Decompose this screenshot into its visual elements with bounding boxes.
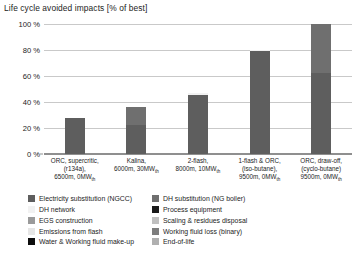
legend-label: EGS construction <box>39 216 93 225</box>
y-axis-tick-mark <box>40 154 43 155</box>
legend-swatch-icon <box>28 228 35 235</box>
legend-item[interactable]: Working fluid loss (binary) <box>152 226 247 235</box>
legend-swatch-icon <box>152 238 159 245</box>
legend-label: Scaling & residues disposal <box>163 216 247 225</box>
bar-segment <box>311 73 331 154</box>
bar-slot <box>106 24 168 154</box>
y-axis-tick-label: 100 % <box>18 20 40 29</box>
legend-column-left: Electricity substitution (NGCC)DH networ… <box>28 194 134 247</box>
x-axis-label-line: 9500m, 0MWth <box>284 173 358 182</box>
x-axis-label: ORC, draw-off,(cyclo-butane)9500m, 0MWth <box>284 157 358 183</box>
legend-label: Electricity substitution (NGCC) <box>39 194 132 203</box>
stacked-bar[interactable] <box>311 24 331 154</box>
chart-title: Life cycle avoided impacts [% of best] <box>4 3 147 13</box>
y-axis-tick-label: 20 % <box>23 124 40 133</box>
legend-swatch-icon <box>152 195 159 202</box>
y-axis-tick-label: 80 % <box>23 46 40 55</box>
subscript-th: th <box>276 177 280 182</box>
legend-item[interactable]: Electricity substitution (NGCC) <box>28 194 134 203</box>
bar-segment <box>250 51 270 154</box>
stacked-bar[interactable] <box>65 118 85 154</box>
legend-swatch-icon <box>152 228 159 235</box>
legend-item[interactable]: Emissions from flash <box>28 226 134 235</box>
stacked-bar[interactable] <box>188 93 208 154</box>
legend-item[interactable]: DH network <box>28 205 134 214</box>
x-axis-label-line: (cyclo-butane) <box>284 165 358 173</box>
legend-swatch-icon <box>28 217 35 224</box>
x-axis-label-line: ORC, draw-off, <box>284 157 358 165</box>
legend-swatch-icon <box>28 206 35 213</box>
x-axis-label-line: 6500m, 0MWth <box>38 173 112 182</box>
subscript-th: th <box>92 177 96 182</box>
y-axis-tick-label: 60 % <box>23 72 40 81</box>
legend-column-right: DH substitution (NG boiler)Process equip… <box>152 194 247 247</box>
bar-slot <box>167 24 229 154</box>
plot-area: 0 %20 %40 %60 %80 %100 % <box>44 24 352 154</box>
bar-series-group <box>44 24 352 154</box>
legend-item[interactable]: Scaling & residues disposal <box>152 216 247 225</box>
bar-segment <box>65 118 85 154</box>
legend-label: Emissions from flash <box>39 227 103 236</box>
legend-item[interactable]: Water & Working fluid make-up <box>28 237 134 246</box>
chart-figure: Life cycle avoided impacts [% of best] 0… <box>0 0 358 263</box>
legend-label: Water & Working fluid make-up <box>39 237 134 246</box>
stacked-bar[interactable] <box>126 107 146 154</box>
stacked-bar[interactable] <box>250 50 270 154</box>
bar-segment <box>188 95 208 154</box>
legend-label: Working fluid loss (binary) <box>163 227 242 236</box>
legend-item[interactable]: Process equipment <box>152 205 247 214</box>
subscript-th: th <box>155 169 159 174</box>
chart-legend: Electricity substitution (NGCC)DH networ… <box>28 194 348 247</box>
legend-item[interactable]: DH substitution (NG boiler) <box>152 194 247 203</box>
bar-slot <box>229 24 291 154</box>
legend-swatch-icon <box>28 195 35 202</box>
bar-slot <box>44 24 106 154</box>
legend-swatch-icon <box>28 238 35 245</box>
legend-label: End-of-life <box>163 237 194 246</box>
y-axis-tick-label: 40 % <box>23 98 40 107</box>
subscript-th: th <box>338 177 342 182</box>
legend-label: Process equipment <box>163 205 222 214</box>
legend-swatch-icon <box>152 217 159 224</box>
subscript-th: th <box>217 169 221 174</box>
legend-item[interactable]: End-of-life <box>152 237 247 246</box>
legend-label: DH network <box>39 205 75 214</box>
legend-label: DH substitution (NG boiler) <box>163 194 245 203</box>
x-axis-labels: ORC, supercritic,(r134a),6500m, 0MWthKal… <box>44 157 352 189</box>
bar-segment <box>311 24 331 73</box>
legend-item[interactable]: EGS construction <box>28 216 134 225</box>
gridline <box>44 154 352 155</box>
bar-segment <box>126 107 146 125</box>
legend-swatch-icon <box>152 206 159 213</box>
bar-segment <box>126 125 146 154</box>
bar-slot <box>290 24 352 154</box>
